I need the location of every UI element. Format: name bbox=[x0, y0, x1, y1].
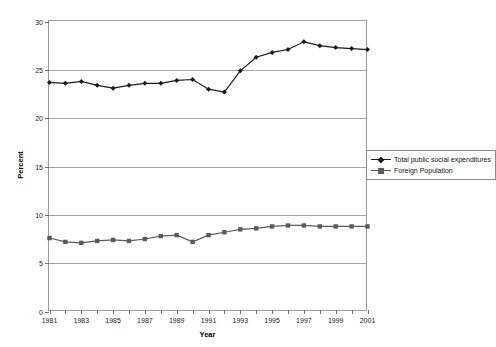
data-point bbox=[142, 81, 147, 86]
data-point bbox=[301, 39, 306, 44]
y-axis-label: 10 bbox=[35, 211, 43, 218]
data-point bbox=[158, 81, 163, 86]
data-point bbox=[365, 224, 369, 228]
y-axis-label: 5 bbox=[39, 260, 43, 267]
data-point bbox=[127, 239, 131, 243]
data-point bbox=[349, 224, 353, 228]
data-point bbox=[111, 238, 115, 242]
series-layer bbox=[49, 21, 368, 312]
data-point bbox=[79, 241, 83, 245]
x-axis-label: 1997 bbox=[296, 317, 312, 324]
data-point bbox=[365, 47, 370, 52]
y-axis-title: Percent bbox=[16, 151, 25, 179]
data-point bbox=[286, 47, 291, 52]
y-axis-label: 25 bbox=[35, 66, 43, 73]
legend-item: Foreign Population bbox=[370, 165, 491, 176]
data-point bbox=[206, 233, 210, 237]
x-axis-label: 2001 bbox=[360, 317, 376, 324]
data-point bbox=[238, 227, 242, 231]
x-axis-label: 1995 bbox=[264, 317, 280, 324]
y-axis-label: 30 bbox=[35, 18, 43, 25]
y-axis-label: 20 bbox=[35, 115, 43, 122]
diamond-marker-icon bbox=[370, 154, 392, 165]
y-axis-label: 15 bbox=[35, 163, 43, 170]
data-point bbox=[159, 234, 163, 238]
data-point bbox=[286, 223, 290, 227]
data-point bbox=[175, 233, 179, 237]
x-axis-label: 1981 bbox=[42, 317, 58, 324]
data-point bbox=[47, 236, 51, 240]
x-axis-label: 1983 bbox=[74, 317, 90, 324]
x-axis-label: 1999 bbox=[328, 317, 344, 324]
x-axis-title: Year bbox=[48, 330, 367, 339]
legend-label: Foreign Population bbox=[392, 165, 453, 176]
data-point bbox=[222, 230, 226, 234]
legend-label: Total public social expenditures bbox=[392, 154, 491, 165]
data-point bbox=[270, 224, 274, 228]
data-point bbox=[63, 81, 68, 86]
data-point bbox=[190, 240, 194, 244]
data-point bbox=[47, 80, 52, 85]
data-point bbox=[270, 50, 275, 55]
plot-area: 051015202530 198119831985198719891991199… bbox=[48, 20, 367, 311]
data-point bbox=[63, 240, 67, 244]
data-point bbox=[127, 83, 132, 88]
data-point bbox=[349, 46, 354, 51]
series-2 bbox=[47, 223, 369, 245]
series-1 bbox=[47, 39, 370, 94]
y-axis-label: 0 bbox=[39, 308, 43, 315]
data-point bbox=[95, 83, 100, 88]
x-axis-label: 1993 bbox=[233, 317, 249, 324]
x-axis-label: 1989 bbox=[169, 317, 185, 324]
chart-legend: Total public social expendituresForeign … bbox=[366, 150, 496, 180]
x-axis-label: 1985 bbox=[105, 317, 121, 324]
x-axis-label: 1987 bbox=[137, 317, 153, 324]
x-axis-label: 1991 bbox=[201, 317, 217, 324]
data-point bbox=[334, 224, 338, 228]
data-point bbox=[317, 43, 322, 48]
square-marker-icon bbox=[370, 165, 392, 176]
data-point bbox=[111, 86, 116, 91]
data-point bbox=[254, 226, 258, 230]
data-point bbox=[302, 223, 306, 227]
legend-item: Total public social expenditures bbox=[370, 154, 491, 165]
data-point bbox=[143, 237, 147, 241]
data-point bbox=[333, 45, 338, 50]
data-point bbox=[95, 239, 99, 243]
data-point bbox=[79, 79, 84, 84]
data-point bbox=[318, 224, 322, 228]
data-point bbox=[174, 78, 179, 83]
